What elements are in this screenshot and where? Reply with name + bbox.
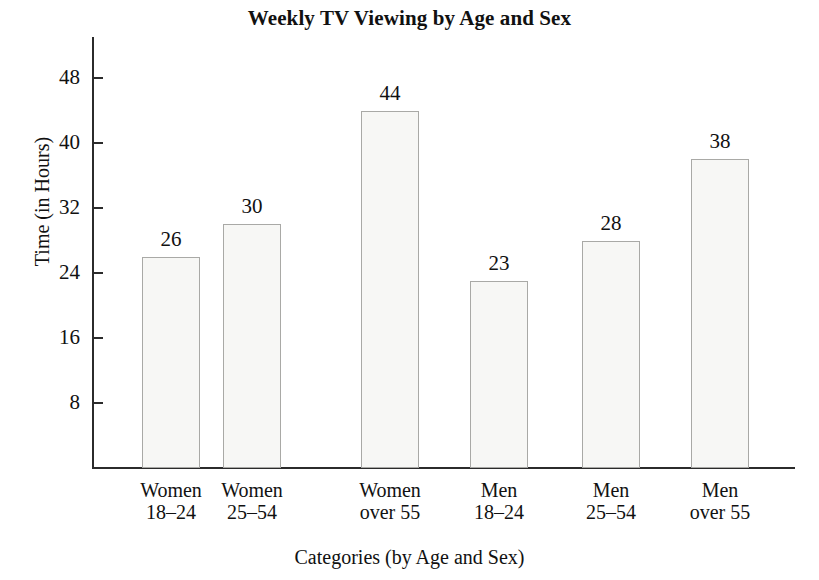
- category-label-line2: over 55: [660, 501, 780, 523]
- y-tick-label: 24: [34, 262, 80, 283]
- y-tick-label: 16: [34, 327, 80, 348]
- y-tick-label: 40: [34, 132, 80, 153]
- y-tick-label: 32: [34, 197, 80, 218]
- y-tick-mark: [92, 77, 103, 79]
- bar-chart: Weekly TV Viewing by Age and Sex Time (i…: [0, 0, 819, 580]
- y-tick-label: 8: [34, 392, 80, 413]
- y-tick-mark: [92, 402, 103, 404]
- y-tick-mark: [92, 272, 103, 274]
- category-label: Womenover 55: [330, 479, 450, 524]
- x-axis-title: Categories (by Age and Sex): [0, 546, 819, 569]
- bar-value-label: 44: [341, 83, 439, 104]
- category-label-line2: 25–54: [192, 501, 312, 523]
- bar: [142, 257, 200, 468]
- bar-value-label: 26: [122, 229, 220, 250]
- category-label-line1: Men: [660, 479, 780, 501]
- category-label-line2: 18–24: [439, 501, 559, 523]
- bar: [223, 224, 281, 468]
- category-label-line2: 25–54: [551, 501, 671, 523]
- category-label-line1: Women: [192, 479, 312, 501]
- bar: [470, 281, 528, 468]
- chart-title: Weekly TV Viewing by Age and Sex: [0, 6, 819, 31]
- y-tick-mark: [92, 142, 103, 144]
- category-label: Menover 55: [660, 479, 780, 524]
- bar: [582, 241, 640, 469]
- bar-value-label: 23: [450, 253, 548, 274]
- bar-value-label: 38: [671, 131, 769, 152]
- category-label: Women25–54: [192, 479, 312, 524]
- category-label-line1: Women: [330, 479, 450, 501]
- y-tick-label: 48: [34, 67, 80, 88]
- bar-value-label: 30: [203, 196, 301, 217]
- bar: [691, 159, 749, 468]
- bar: [361, 111, 419, 469]
- y-axis-line: [92, 37, 94, 469]
- bar-value-label: 28: [562, 213, 660, 234]
- category-label: Men18–24: [439, 479, 559, 524]
- y-tick-mark: [92, 207, 103, 209]
- category-label-line1: Men: [551, 479, 671, 501]
- category-label-line1: Men: [439, 479, 559, 501]
- category-label: Men25–54: [551, 479, 671, 524]
- y-tick-mark: [92, 337, 103, 339]
- category-label-line2: over 55: [330, 501, 450, 523]
